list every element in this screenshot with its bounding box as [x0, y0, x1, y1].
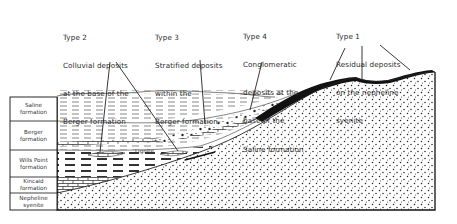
callout-type4-line: Saline formation	[243, 145, 304, 154]
callout-type1: Type 1 Residual deposits on the nephelin…	[336, 13, 401, 145]
callout-type3-line: within the	[155, 89, 223, 98]
callout-type1-line: on the nepheline	[336, 88, 401, 97]
callout-type1-line: syenite	[336, 116, 401, 125]
cross-section-figure: Type 2 Colluvial deposits at the base of…	[0, 0, 457, 224]
callout-type2-line: Colluvial deposits	[63, 61, 129, 70]
callout-type4-line: Conglomeratic	[243, 60, 304, 69]
callout-type3-line: Stratified deposits	[155, 61, 223, 70]
callout-type2-line: Berger formation	[63, 117, 129, 126]
legend-wills-point-formation: Wills Point formation	[10, 150, 57, 177]
callout-type3: Type 3 Stratified deposits within the Be…	[155, 14, 223, 146]
lignite-label: Lignite	[135, 148, 154, 154]
callout-type3-line: Berger formation	[155, 117, 223, 126]
callout-type1-line: Residual deposits	[336, 60, 401, 69]
callout-type4-line: Type 4	[243, 32, 304, 41]
callout-type4-line: base of the	[243, 116, 304, 125]
legend-nepheline-syenite: Nepheline syenite	[10, 193, 57, 210]
callout-type2-line: at the base of the	[63, 89, 129, 98]
callout-type4-line: deposits at the	[243, 88, 304, 97]
callout-type2-line: Type 2	[63, 33, 129, 42]
legend-kincaid-formation: Kincaid formation	[10, 177, 57, 193]
callout-type2: Type 2 Colluvial deposits at the base of…	[63, 14, 129, 146]
legend-saline-formation: Saline formation	[10, 97, 57, 121]
callout-type3-line: Type 3	[155, 33, 223, 42]
callout-type1-line: Type 1	[336, 32, 401, 41]
legend-berger-formation: Berger formation	[10, 121, 57, 150]
callout-type4: Type 4 Conglomeratic deposits at the bas…	[243, 13, 304, 173]
